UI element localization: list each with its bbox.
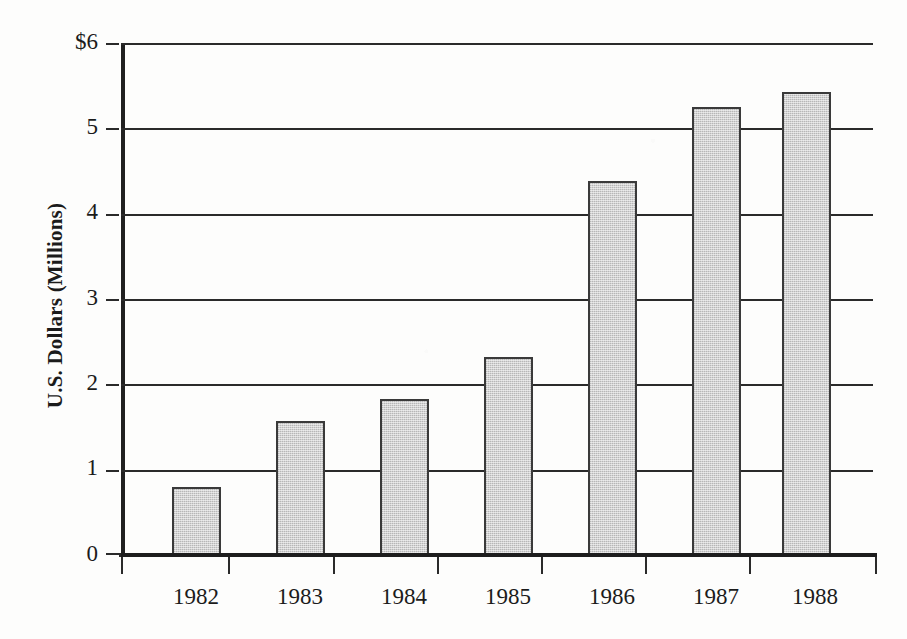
x-tick-label-1987: 1987 <box>661 585 771 608</box>
y-tick-0 <box>106 553 119 555</box>
y-tick-6 <box>106 43 119 45</box>
x-tick-label-1983: 1983 <box>245 585 355 608</box>
gridline-4 <box>121 214 873 216</box>
x-tick-label-1986: 1986 <box>557 585 667 608</box>
y-tick-label-4: 4 <box>28 200 98 223</box>
x-tick-label-1982: 1982 <box>141 585 251 608</box>
bar-1983 <box>276 421 325 555</box>
x-tick-label-1988: 1988 <box>760 585 870 608</box>
y-tick-2 <box>106 384 119 386</box>
bar-1985 <box>484 357 533 555</box>
x-axis-line <box>121 553 877 557</box>
gridline-6 <box>121 43 873 45</box>
x-tick-6 <box>749 557 751 574</box>
plot-area <box>121 43 873 555</box>
bar-1988 <box>782 92 831 555</box>
bar-1986 <box>588 181 637 555</box>
gridline-5 <box>121 128 873 130</box>
y-tick-5 <box>106 128 119 130</box>
bar-chart: U.S. Dollars (Millions) $6 5 4 3 2 1 0 <box>0 0 907 639</box>
y-tick-label-1: 1 <box>28 456 98 479</box>
y-tick-label-5: 5 <box>28 115 98 138</box>
y-tick-1 <box>106 470 119 472</box>
y-tick-label-3: 3 <box>28 286 98 309</box>
y-tick-4 <box>106 214 119 216</box>
y-axis-tick-labels: $6 5 4 3 2 1 0 <box>28 43 98 555</box>
x-tick-7 <box>875 557 877 574</box>
gridline-3 <box>121 299 873 301</box>
x-tick-1 <box>228 557 230 574</box>
x-tick-5 <box>645 557 647 574</box>
y-tick-label-2: 2 <box>28 371 98 394</box>
y-tick-3 <box>106 299 119 301</box>
x-tick-4 <box>541 557 543 574</box>
x-tick-label-1984: 1984 <box>349 585 459 608</box>
bar-1987 <box>692 107 741 555</box>
x-tick-2 <box>333 557 335 574</box>
x-tick-0 <box>121 557 123 574</box>
y-tick-label-6: $6 <box>28 30 98 53</box>
x-tick-3 <box>437 557 439 574</box>
bar-1982 <box>172 487 221 555</box>
y-tick-label-0: 0 <box>28 542 98 565</box>
bar-1984 <box>380 399 429 555</box>
x-tick-label-1985: 1985 <box>453 585 563 608</box>
